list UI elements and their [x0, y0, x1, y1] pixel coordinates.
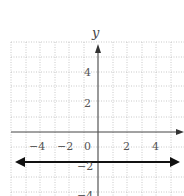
left-arrow-icon	[15, 157, 25, 167]
y-tick-label: −4	[77, 189, 93, 196]
graph: y −4 −2 0 2 4 4 2 −2 −4	[0, 0, 184, 196]
x-tick-label: −2	[57, 140, 73, 153]
x-axis-arrow-icon	[176, 129, 184, 135]
y-axis-label: y	[91, 25, 100, 40]
x-tick-label: −4	[29, 140, 45, 153]
x-tick-label: 4	[152, 140, 159, 153]
y-tick-label: −2	[77, 160, 93, 173]
x-tick-label: 0	[84, 140, 91, 153]
right-arrow-icon	[170, 157, 180, 167]
x-tick-label: 2	[123, 140, 130, 153]
y-tick-label: 4	[84, 66, 91, 79]
y-axis-arrow-icon	[95, 44, 101, 53]
y-tick-label: 2	[84, 97, 91, 110]
